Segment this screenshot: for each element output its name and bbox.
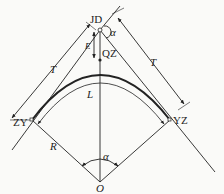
e-label: E [85, 42, 91, 51]
yz-label: YZ [173, 115, 188, 126]
jd-point [98, 28, 102, 32]
t-left-label: T [50, 64, 56, 75]
zy-point [30, 118, 33, 121]
yz-point [168, 118, 171, 121]
curve-diagram: JD α E QZ L T T ZY YZ R α O [0, 0, 224, 194]
zy-label: ZY [13, 117, 28, 128]
jd-label: JD [90, 14, 102, 25]
alpha-bottom-label: α [103, 151, 109, 162]
radius-right [100, 120, 170, 182]
t-right-label: T [150, 57, 156, 68]
qz-label: QZ [102, 48, 117, 59]
right-tangent-line [100, 30, 215, 172]
r-label: R [50, 141, 57, 152]
radius-left [32, 120, 100, 182]
l-label: L [87, 89, 93, 100]
o-label: O [96, 183, 104, 194]
curve-arc [32, 75, 170, 120]
alpha-top-label: α [110, 27, 116, 38]
